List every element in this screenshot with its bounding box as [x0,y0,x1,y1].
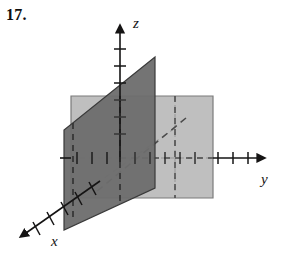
coordinate-planes-diagram: z y x [0,0,286,258]
x-axis-label: x [50,233,58,249]
figure-container: 17. [0,0,286,258]
y-axis-label: y [259,171,268,187]
z-axis-label: z [132,15,139,31]
dark-plane [64,57,155,230]
